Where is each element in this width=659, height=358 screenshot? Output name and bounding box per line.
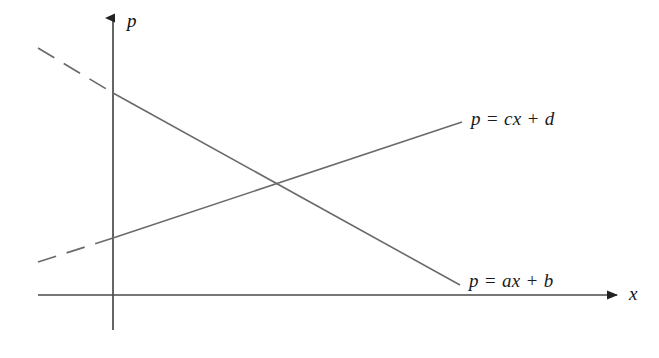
demand-line (113, 93, 460, 285)
supply-demand-figure: p = cx + d p = ax + b p x (0, 0, 659, 358)
supply-line (113, 122, 462, 238)
plot-canvas (0, 0, 659, 358)
price-axis-label: p (127, 10, 137, 32)
demand-line-equation-label: p = ax + b (469, 270, 554, 292)
supply-line-dashed-extension (38, 238, 113, 262)
quantity-axis-label: x (629, 283, 637, 305)
demand-line-dashed-extension (38, 48, 113, 93)
supply-line-equation-label: p = cx + d (471, 108, 555, 130)
